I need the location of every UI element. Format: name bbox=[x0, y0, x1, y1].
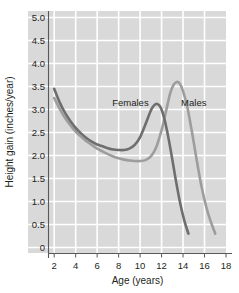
x-tick-label-10: 10 bbox=[135, 260, 146, 271]
x-tick-label-6: 6 bbox=[95, 260, 100, 271]
x-tick-label-16: 16 bbox=[199, 260, 210, 271]
chart-figure: 00.51.01.52.02.53.03.54.04.55.0 24681012… bbox=[0, 0, 239, 293]
y-tick-label-0.5: 0.5 bbox=[32, 219, 45, 230]
x-tick-label-18: 18 bbox=[221, 260, 232, 271]
x-tick-label-12: 12 bbox=[156, 260, 167, 271]
height-gain-line-chart: 00.51.01.52.02.53.03.54.04.55.0 24681012… bbox=[0, 0, 239, 293]
y-tick-label-3.0: 3.0 bbox=[32, 104, 45, 115]
series-label-females: Females bbox=[112, 97, 149, 108]
y-axis-title: Height gain (inches/year) bbox=[4, 76, 15, 187]
x-tick-label-8: 8 bbox=[116, 260, 121, 271]
x-tick-label-2: 2 bbox=[52, 260, 57, 271]
y-tick-label-2.5: 2.5 bbox=[32, 127, 45, 138]
y-tick-label-0: 0 bbox=[40, 242, 45, 253]
x-axis-title: Age (years) bbox=[112, 275, 164, 286]
x-tick-label-4: 4 bbox=[73, 260, 78, 271]
y-tick-label-1.0: 1.0 bbox=[32, 196, 45, 207]
y-tick-label-4.5: 4.5 bbox=[32, 35, 45, 46]
y-tick-label-3.5: 3.5 bbox=[32, 81, 45, 92]
y-tick-label-2.0: 2.0 bbox=[32, 150, 45, 161]
y-tick-label-1.5: 1.5 bbox=[32, 173, 45, 184]
x-tick-label-14: 14 bbox=[178, 260, 189, 271]
series-label-males: Males bbox=[181, 97, 207, 108]
y-tick-label-5.0: 5.0 bbox=[32, 12, 45, 23]
y-tick-label-4.0: 4.0 bbox=[32, 58, 45, 69]
